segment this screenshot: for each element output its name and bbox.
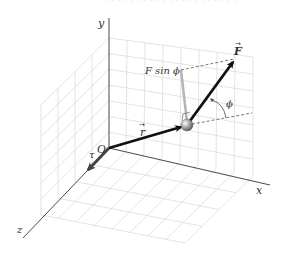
r-arrow-accent: → <box>139 121 145 129</box>
f-sin-phi-component <box>181 70 187 122</box>
z-axis-label: z <box>16 224 23 235</box>
phi-label: ϕ <box>226 98 233 109</box>
f-sin-phi-label: F sin ϕ <box>144 65 180 76</box>
particle <box>181 119 193 131</box>
x-axis-label: x <box>256 184 263 197</box>
torque-diagram: y x z O τ F sin ϕ r → F → ϕ <box>0 0 289 264</box>
x-axis <box>109 148 270 185</box>
xz-plane-grid <box>41 152 253 244</box>
tau-label: τ <box>89 149 95 160</box>
f-arrow-accent: → <box>235 40 241 48</box>
f-sin-phi-dashed <box>181 59 234 70</box>
y-axis-label: y <box>97 17 105 30</box>
f-vector <box>187 62 233 125</box>
yz-plane-grid <box>41 38 109 215</box>
